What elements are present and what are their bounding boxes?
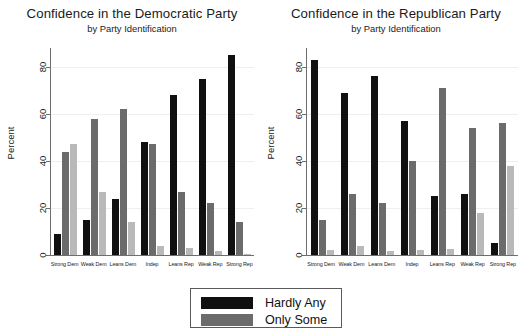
y-axis-tick-label: 0 bbox=[37, 252, 48, 257]
x-axis-label: Leans Dem bbox=[108, 258, 137, 270]
y-axis-label: Percent bbox=[5, 126, 16, 159]
bar bbox=[387, 251, 394, 255]
bar-group bbox=[488, 48, 518, 255]
bar bbox=[401, 121, 408, 255]
bar bbox=[357, 246, 364, 255]
x-axis-labels-republican: Strong DemWeak DemLeans DemIndepLeans Re… bbox=[306, 258, 518, 270]
x-axis-label: Weak Rep bbox=[196, 258, 225, 270]
bar bbox=[341, 93, 348, 255]
chart-titles-republican: Confidence in the Republican Party by Pa… bbox=[264, 6, 528, 35]
x-axis-label: Leans Dem bbox=[367, 258, 397, 270]
plot-area-democratic: 020406080 bbox=[50, 48, 254, 256]
legend-swatch-hardly-any bbox=[201, 297, 253, 309]
bar bbox=[62, 152, 69, 256]
bar bbox=[149, 144, 156, 255]
bar bbox=[112, 199, 119, 255]
bar-group bbox=[167, 48, 196, 255]
x-axis-label: Strong Dem bbox=[306, 258, 336, 270]
legend-swatch-only-some bbox=[201, 314, 253, 326]
x-axis-label: Leans Rep bbox=[167, 258, 196, 270]
y-axis-tick-label: 80 bbox=[37, 62, 48, 73]
legend-item-hardly-any: Hardly Any bbox=[201, 294, 341, 311]
chart-titles-democratic: Confidence in the Democratic Party by Pa… bbox=[0, 6, 264, 35]
x-axis-label: Strong Rep bbox=[225, 258, 254, 270]
bar bbox=[141, 142, 148, 255]
bar-group bbox=[138, 48, 167, 255]
bar bbox=[170, 95, 177, 255]
bar bbox=[461, 194, 468, 255]
chart-title: Confidence in the Republican Party bbox=[264, 6, 528, 22]
bar-group bbox=[80, 48, 109, 255]
x-axis-line bbox=[50, 255, 254, 256]
legend-label-hardly-any: Hardly Any bbox=[265, 296, 326, 310]
bar-group bbox=[337, 48, 367, 255]
bar bbox=[439, 88, 446, 255]
y-axis-tick-label: 80 bbox=[293, 62, 304, 73]
x-axis-label: Leans Rep bbox=[427, 258, 457, 270]
bar bbox=[371, 76, 378, 255]
plot-area-republican: 020406080 bbox=[306, 48, 518, 256]
chart-title: Confidence in the Democratic Party bbox=[0, 6, 264, 22]
bar bbox=[477, 213, 484, 255]
bar bbox=[83, 220, 90, 255]
bar bbox=[349, 194, 356, 255]
bar bbox=[499, 123, 506, 255]
bar bbox=[215, 251, 222, 255]
bar-group bbox=[225, 48, 254, 255]
bar bbox=[157, 246, 164, 255]
bar bbox=[128, 222, 135, 255]
bar-groups bbox=[51, 48, 254, 255]
bar bbox=[507, 166, 514, 255]
bar bbox=[178, 192, 185, 256]
bar bbox=[319, 220, 326, 255]
bar bbox=[54, 234, 61, 255]
x-axis-label: Indep bbox=[397, 258, 427, 270]
bar-group bbox=[367, 48, 397, 255]
x-axis-label: Indep bbox=[137, 258, 166, 270]
bar bbox=[70, 144, 77, 255]
bar bbox=[327, 250, 334, 255]
bar-group bbox=[51, 48, 80, 255]
bar bbox=[379, 203, 386, 255]
bar bbox=[244, 254, 251, 255]
bar bbox=[417, 250, 424, 255]
chart-subtitle: by Party Identification bbox=[264, 23, 528, 35]
bar bbox=[311, 60, 318, 255]
x-axis-label: Strong Dem bbox=[50, 258, 79, 270]
y-axis-tick-label: 60 bbox=[37, 109, 48, 120]
chart-subtitle: by Party Identification bbox=[0, 23, 264, 35]
bar bbox=[469, 128, 476, 255]
bar bbox=[491, 243, 498, 255]
bar bbox=[447, 249, 454, 255]
y-axis-tick-label: 20 bbox=[37, 203, 48, 214]
chart-panel-democratic: Confidence in the Democratic Party by Pa… bbox=[0, 0, 264, 285]
bar bbox=[431, 196, 438, 255]
bar bbox=[186, 248, 193, 255]
bar-group bbox=[397, 48, 427, 255]
bar-group bbox=[109, 48, 138, 255]
y-axis-tick-label: 0 bbox=[293, 252, 304, 257]
x-axis-label: Weak Dem bbox=[79, 258, 108, 270]
bar bbox=[199, 79, 206, 255]
x-axis-label: Strong Rep bbox=[488, 258, 518, 270]
chart-legend: Hardly Any Only Some bbox=[190, 288, 342, 328]
legend-item-only-some: Only Some bbox=[201, 311, 341, 328]
chart-panel-republican: Confidence in the Republican Party by Pa… bbox=[264, 0, 528, 285]
bar bbox=[409, 161, 416, 255]
bar bbox=[207, 203, 214, 255]
bar-group bbox=[458, 48, 488, 255]
y-axis-tick-label: 40 bbox=[37, 156, 48, 167]
bar-groups bbox=[307, 48, 518, 255]
bar bbox=[236, 222, 243, 255]
x-axis-labels-democratic: Strong DemWeak DemLeans DemIndepLeans Re… bbox=[50, 258, 254, 270]
y-axis-tick-label: 20 bbox=[293, 203, 304, 214]
bar-group bbox=[428, 48, 458, 255]
x-axis-label: Weak Dem bbox=[336, 258, 366, 270]
y-axis-label: Percent bbox=[265, 126, 276, 159]
y-axis-tick-label: 60 bbox=[293, 109, 304, 120]
bar bbox=[99, 192, 106, 256]
bar bbox=[91, 119, 98, 255]
bar-group bbox=[196, 48, 225, 255]
x-axis-line bbox=[306, 255, 518, 256]
